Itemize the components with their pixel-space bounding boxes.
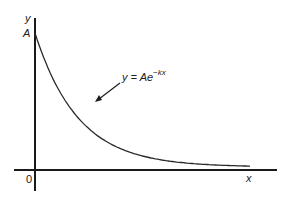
equation-base: y = Ae — [122, 71, 153, 83]
y-axis-label: y — [25, 13, 31, 24]
origin-label: 0 — [26, 174, 32, 185]
equation-exponent: −kx — [153, 68, 166, 77]
annotation-arrow — [99, 83, 120, 99]
exponential-decay-chart: y A 0 x y = Ae−kx — [0, 0, 287, 198]
intercept-label: A — [23, 28, 30, 39]
decay-curve — [35, 33, 250, 166]
equation-label: y = Ae−kx — [122, 69, 166, 83]
chart-canvas — [0, 0, 287, 198]
x-axis-label: x — [246, 173, 252, 184]
arrowhead-icon — [95, 95, 102, 102]
